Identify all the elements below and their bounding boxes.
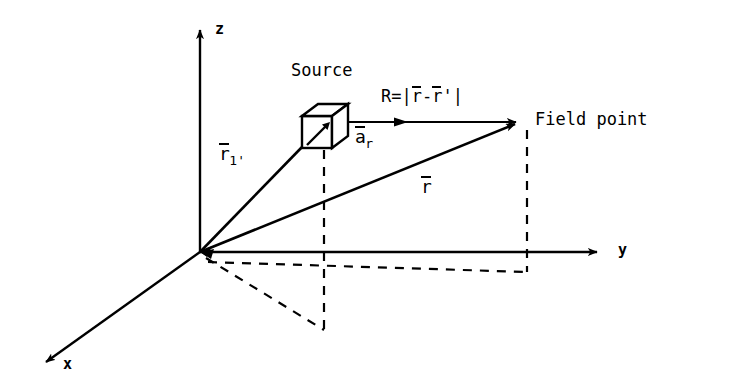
source-label: Source xyxy=(291,62,352,79)
source-position-vector-subscript: 1' xyxy=(229,153,245,168)
formula-close-bar: | xyxy=(453,86,463,106)
cube-front-face xyxy=(302,116,332,148)
vector-R xyxy=(345,117,516,126)
distance-formula-label: R=|r-r'| xyxy=(381,88,463,105)
formula-prefix: R= xyxy=(381,86,401,106)
unit-vector-label: ar xyxy=(355,128,374,146)
z-axis-label: z xyxy=(215,22,224,37)
origin-to-source-projection xyxy=(206,258,324,330)
origin-to-field-projection xyxy=(208,262,527,272)
formula-open-bar: | xyxy=(401,86,411,106)
x-axis-label: x xyxy=(63,357,72,372)
unit-vector-arrowhead xyxy=(394,117,408,126)
source-position-vector-label: r1' xyxy=(219,145,245,163)
r-source-line xyxy=(200,146,303,252)
formula-prime: ' xyxy=(442,86,452,106)
formula-minus: - xyxy=(422,86,432,106)
field-position-vector-base: r xyxy=(421,178,432,196)
field-point-label: Field point xyxy=(535,111,648,128)
vector-geometry-diagram: z y x Source Field point R=|r-r'| ar r1'… xyxy=(0,0,740,391)
unit-vector-subscript: r xyxy=(365,136,373,151)
formula-r-vector: r xyxy=(412,88,422,105)
diagram-canvas xyxy=(0,0,740,391)
axis-x xyxy=(46,252,200,362)
x-axis-line xyxy=(46,252,200,362)
y-axis-label: y xyxy=(618,243,627,258)
vector-r-source xyxy=(200,146,303,257)
field-position-vector-label: r xyxy=(421,178,432,196)
formula-r-prime-vector: r xyxy=(432,88,442,105)
